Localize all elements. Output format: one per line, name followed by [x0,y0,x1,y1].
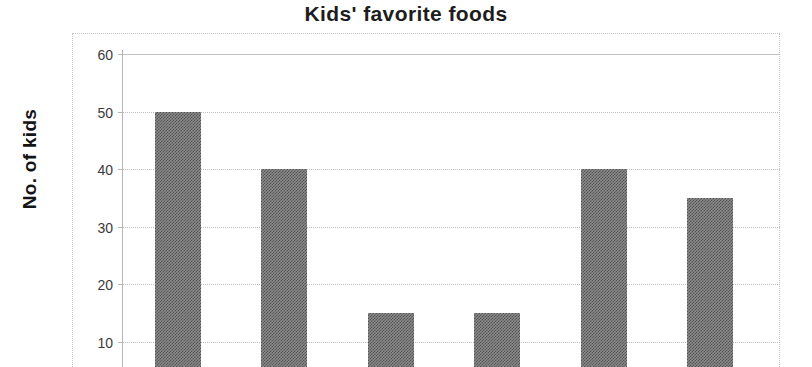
gridline-50: 50 [122,112,780,113]
y-tick-label-50: 50 [97,105,113,121]
bar [368,313,414,367]
chart-title: Kids' favorite foods [0,0,812,28]
gridline-30: 30 [122,227,780,228]
y-tick-mark-10 [118,342,123,343]
y-tick-label-30: 30 [97,220,113,236]
bar [581,169,627,367]
bar-chart: Kids' favorite foods No. of kids 1020304… [0,0,812,367]
y-tick-mark-60 [118,54,123,55]
bar [261,169,307,367]
y-tick-label-40: 40 [97,162,113,178]
y-tick-label-10: 10 [97,335,113,351]
y-axis-title: No. of kids [19,59,41,259]
bar [155,112,201,367]
bar [687,198,733,367]
y-tick-mark-20 [118,284,123,285]
plot-area: 102030405060 [122,54,780,367]
y-tick-label-60: 60 [97,47,113,63]
y-tick-mark-40 [118,169,123,170]
bar [474,313,520,367]
gridline-40: 40 [122,169,780,170]
y-tick-mark-50 [118,112,123,113]
y-tick-label-20: 20 [97,277,113,293]
gridline-10: 10 [122,342,780,343]
gridline-20: 20 [122,284,780,285]
gridline-60: 60 [122,54,780,55]
y-tick-mark-30 [118,227,123,228]
